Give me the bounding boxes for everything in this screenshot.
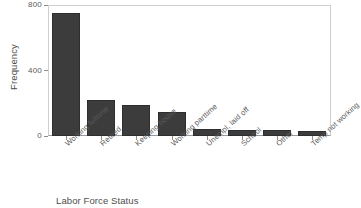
x-axis-title: Labor Force Status [56, 196, 139, 206]
y-axis-title: Frequency [9, 27, 19, 107]
y-axis-tick-label: 400 [28, 67, 42, 75]
y-axis-tick-mark [44, 70, 48, 71]
y-axis-tick-label: 800 [28, 1, 42, 9]
y-axis-tick-mark [44, 5, 48, 6]
bar[interactable] [52, 13, 80, 136]
y-axis-tick-label: 0 [37, 132, 42, 140]
y-axis-tick-mark [44, 136, 48, 137]
